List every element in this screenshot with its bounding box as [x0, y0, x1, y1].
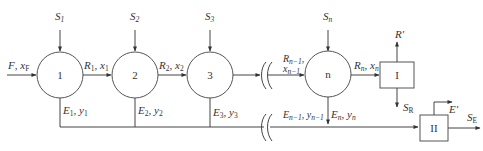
- extract-label-1: E1, y1: [62, 104, 88, 118]
- stage-2: 2: [112, 52, 158, 98]
- stage-1: 1: [37, 52, 83, 98]
- solvent-label-3: S3: [205, 10, 215, 24]
- break-symbol-upper-left: [262, 62, 267, 89]
- raffinate-label-n: Rn, xn: [353, 59, 379, 73]
- separator-2: II E′ SE: [420, 102, 480, 141]
- stage-n: n: [305, 51, 351, 97]
- raffinate-label-1: R1, x1: [83, 59, 109, 73]
- s-r-label: SR: [403, 101, 414, 115]
- separator-label-1: I: [395, 69, 399, 81]
- solvent-feeds: S1 S2 S3 Sn: [55, 10, 333, 51]
- s-e-label: SE: [467, 111, 478, 125]
- separator-1: I R′ SR: [380, 28, 414, 115]
- e-prime-label: E′: [448, 103, 459, 115]
- stage-number-1: 1: [57, 69, 63, 81]
- extraction-flow-diagram: S1 S2 S3 Sn F, xF 1 2 3 n R1, x1 R2, x2 …: [0, 0, 483, 151]
- feed-stream: F, xF: [7, 59, 36, 75]
- raffinate-label-2: R2, x2: [158, 59, 184, 73]
- solvent-label-1: S1: [55, 10, 64, 24]
- extract-label-n-minus-1: En−1, yn−1: [282, 109, 324, 122]
- solvent-label-n: Sn: [323, 10, 333, 24]
- stage-number-2: 2: [132, 69, 138, 81]
- solvent-label-2: S2: [130, 10, 140, 24]
- stage-number-3: 3: [207, 69, 213, 81]
- extract-label-3: E3, y3: [212, 106, 238, 120]
- separator-label-2: II: [430, 122, 438, 134]
- stage-3: 3: [187, 52, 233, 98]
- extract-streams: E1, y1 E2, y2 E3, y3 En, yn En−1, yn−1: [60, 97, 356, 127]
- r-prime-label: R′: [394, 28, 405, 40]
- stage-number-n: n: [325, 68, 331, 80]
- extract-label-n: En, yn: [330, 108, 356, 122]
- extract-collector: [60, 114, 418, 141]
- feed-label: F, xF: [7, 59, 29, 73]
- extract-label-2: E2, y2: [137, 104, 163, 118]
